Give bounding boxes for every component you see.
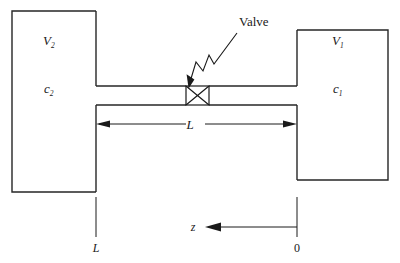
- right-vessel-volume-label: V1: [332, 33, 344, 50]
- z-axis-label: z: [190, 220, 196, 234]
- right-vessel-concentration-label: c1: [333, 81, 343, 98]
- left-vessel: [12, 11, 96, 192]
- left-vessel-outline: [12, 11, 96, 192]
- right-vessel-labels: V1 c1: [332, 33, 344, 98]
- pipe-length-dimension: L: [96, 117, 297, 132]
- left-vessel-volume-label: V2: [43, 33, 55, 50]
- axis-tick-left-label: L: [92, 241, 100, 255]
- z-coordinate-axis: z L 0: [92, 197, 300, 255]
- z-axis-arrowhead: [205, 223, 221, 232]
- valve-callout-label: Valve: [239, 14, 269, 29]
- left-vessel-labels: V2 c2: [43, 33, 55, 98]
- valve-leader-line: [190, 33, 237, 82]
- valve-symbol: [186, 86, 209, 105]
- right-vessel: [297, 30, 388, 180]
- right-vessel-outline: [297, 30, 388, 180]
- axis-tick-right-label: 0: [294, 241, 300, 255]
- dimension-arrowhead-left: [96, 121, 110, 128]
- valve-callout-leader: [187, 33, 237, 89]
- left-vessel-concentration-label: c2: [44, 81, 54, 98]
- diagram-canvas: Valve V2 c2 V1 c1 L: [0, 0, 400, 263]
- pipe-length-label: L: [185, 117, 193, 132]
- dimension-arrowhead-right: [283, 121, 297, 128]
